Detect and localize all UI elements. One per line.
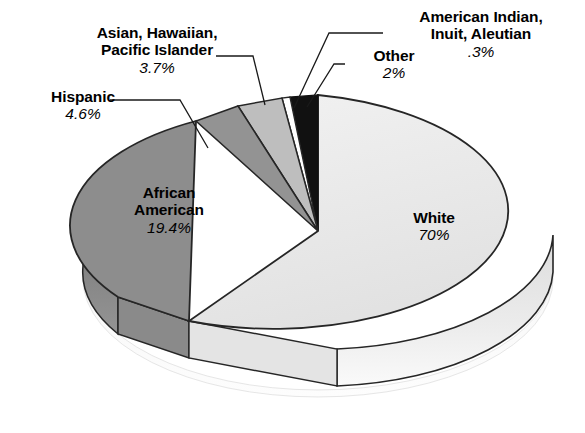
slice-label-hispanic: Hispanic 4.6% xyxy=(8,88,158,123)
slice-label-white: White 70% xyxy=(388,209,480,244)
slice-label-african-american: African American 19.4% xyxy=(110,184,228,236)
slice-label-hispanic-line1: Hispanic xyxy=(8,88,158,105)
slice-cut-face-white xyxy=(189,321,337,386)
slice-label-asian: Asian, Hawaiian, Pacific Islander 3.7% xyxy=(42,24,272,76)
slice-value-other: 2% xyxy=(348,64,440,81)
slice-label-african-american-line2: American xyxy=(110,201,228,218)
slice-label-african-american-line1: African xyxy=(110,184,228,201)
pie-chart-figure: Asian, Hawaiian, Pacific Islander 3.7% H… xyxy=(0,0,585,433)
slice-value-hispanic: 4.6% xyxy=(8,105,158,122)
slice-value-asian: 3.7% xyxy=(42,59,272,76)
slice-value-white: 70% xyxy=(388,226,480,243)
slice-label-asian-line1: Asian, Hawaiian, xyxy=(42,24,272,41)
slice-value-african-american: 19.4% xyxy=(110,219,228,236)
slice-label-american-indian-line2: Inuit, Aleutian xyxy=(385,25,577,42)
slice-label-white-line1: White xyxy=(388,209,480,226)
slice-label-asian-line2: Pacific Islander xyxy=(42,41,272,58)
slice-label-other: Other 2% xyxy=(348,47,440,82)
slice-label-other-line1: Other xyxy=(348,47,440,64)
slice-label-american-indian-line1: American Indian, xyxy=(385,8,577,25)
